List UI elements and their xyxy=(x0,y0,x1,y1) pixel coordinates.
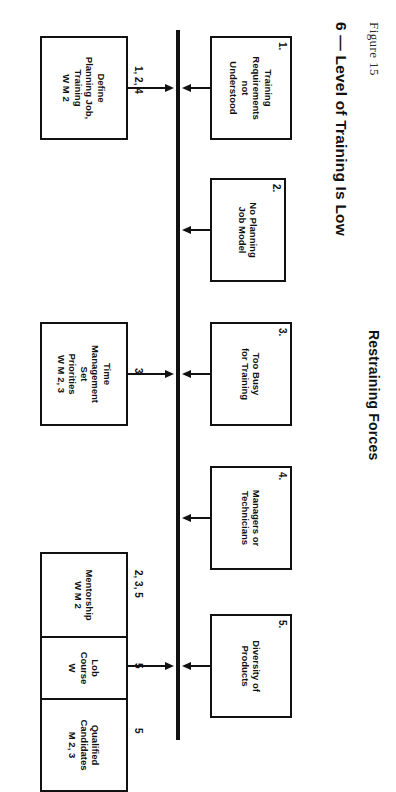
counter-measure-tag-3: 2, 3, 5 xyxy=(133,570,144,598)
section-title: 6 — Level of Training Is Low xyxy=(332,22,350,236)
arrow-head-down-3 xyxy=(182,370,191,378)
counter-measure-tag-5: 5 xyxy=(133,728,144,734)
restraining-force-label-4: Managers or Technicians xyxy=(240,490,263,547)
restraining-force-number-1: 1. xyxy=(277,42,288,50)
arrow-head-down-4 xyxy=(182,514,191,522)
restraining-force-number-5: 5. xyxy=(277,620,288,628)
counter-measure-box-5: Qualified Candidates M 2, 3 xyxy=(40,698,128,792)
counter-measure-box-2: Time Management Set Priorities W M 2, 3 xyxy=(40,322,128,426)
arrow-shaft-8 xyxy=(128,665,168,667)
arrow-shaft-1 xyxy=(188,87,210,89)
counter-measure-tag-1: 1, 2, 4 xyxy=(133,66,144,94)
restraining-force-number-2: 2. xyxy=(271,184,282,192)
arrow-head-down-5 xyxy=(182,662,191,670)
arrow-head-up-1 xyxy=(165,84,174,92)
arrow-shaft-5 xyxy=(188,665,210,667)
counter-measure-label-4: Lob Course W xyxy=(67,652,102,685)
arrow-head-up-3 xyxy=(165,662,174,670)
arrow-head-down-1 xyxy=(182,84,191,92)
counter-measure-label-2: Time Management Set Priorities W M 2, 3 xyxy=(55,345,113,403)
restraining-force-box-3: 3. Too Busy for Training xyxy=(210,322,292,426)
counter-measure-box-3: Mentorship W M 2 xyxy=(40,552,128,638)
restraining-force-box-2: 2. No Planning Job Model xyxy=(210,178,286,282)
restraining-force-box-5: 5. Diversity of Products xyxy=(210,614,292,718)
arrow-shaft-7 xyxy=(128,373,168,375)
restraining-force-label-5: Diversity of Products xyxy=(240,640,263,692)
figure-label: Figure 15 xyxy=(366,22,382,76)
counter-measure-label-3: Mentorship W M 2 xyxy=(73,569,96,620)
arrow-head-down-2 xyxy=(182,226,191,234)
restraining-force-label-3: Too Busy for Training xyxy=(240,348,263,400)
center-divider-line xyxy=(177,30,181,740)
restraining-force-label-1: Training Requirements not Understood xyxy=(228,56,274,119)
restraining-force-box-4: 4. Managers or Technicians xyxy=(210,466,292,570)
restraining-force-number-4: 4. xyxy=(277,472,288,480)
arrow-shaft-6 xyxy=(128,87,168,89)
arrow-shaft-2 xyxy=(188,229,210,231)
restraining-force-number-3: 3. xyxy=(277,328,288,336)
arrow-shaft-4 xyxy=(188,517,210,519)
counter-measure-label-5: Qualified Candidates M 2, 3 xyxy=(67,719,102,770)
arrow-shaft-3 xyxy=(188,373,210,375)
arrow-head-up-2 xyxy=(165,370,174,378)
group-title: Restraining Forces xyxy=(366,330,382,460)
counter-measure-box-4: Lob Course W xyxy=(40,636,128,700)
counter-measure-label-1: Define Planning Job, Training W M 2 xyxy=(61,57,107,119)
counter-measure-box-1: Define Planning Job, Training W M 2 xyxy=(40,36,128,140)
restraining-force-box-1: 1. Training Requirements not Understood xyxy=(210,36,292,140)
restraining-force-label-2: No Planning Job Model xyxy=(237,202,260,257)
